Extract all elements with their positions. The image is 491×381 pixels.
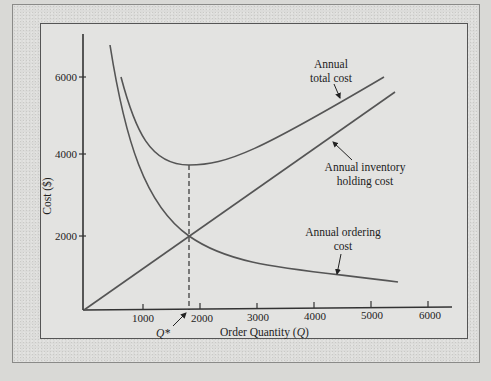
qstar-arrow <box>173 313 186 326</box>
total-cost-label-line2: total cost <box>310 72 353 84</box>
holding-cost-label-line2: holding cost <box>337 175 394 188</box>
total-cost-label-line1: Annual <box>314 58 348 70</box>
ordering-cost-label-line1: Annual ordering <box>305 226 381 239</box>
x-tick-6000: 6000 <box>419 309 442 321</box>
holding-cost-label-line1: Annual inventory <box>325 161 406 174</box>
holding-cost-line <box>84 92 395 310</box>
total-cost-curve <box>121 77 384 165</box>
x-tick-1000: 1000 <box>132 312 155 324</box>
holding-cost-arrow <box>333 142 352 160</box>
eoq-chart: 6000 4000 2000 1000 2000 3000 4000 5000 … <box>0 0 491 381</box>
x-axis <box>83 307 452 310</box>
x-tick-4000: 4000 <box>304 310 327 322</box>
x-tick-2000: 2000 <box>191 312 214 324</box>
y-tick-4000: 4000 <box>55 148 78 160</box>
total-cost-arrow <box>334 84 340 98</box>
x-axis-title: Order Quantity (Q) <box>220 326 309 339</box>
y-axis-title: Cost ($) <box>41 177 54 215</box>
ordering-cost-label-line2: cost <box>334 240 353 252</box>
ordering-cost-arrow <box>337 254 341 274</box>
y-tick-2000: 2000 <box>55 230 78 242</box>
y-tick-6000: 6000 <box>55 71 78 83</box>
x-tick-5000: 5000 <box>361 309 384 321</box>
x-tick-3000: 3000 <box>247 311 270 323</box>
qstar-label: Q* <box>156 327 170 339</box>
